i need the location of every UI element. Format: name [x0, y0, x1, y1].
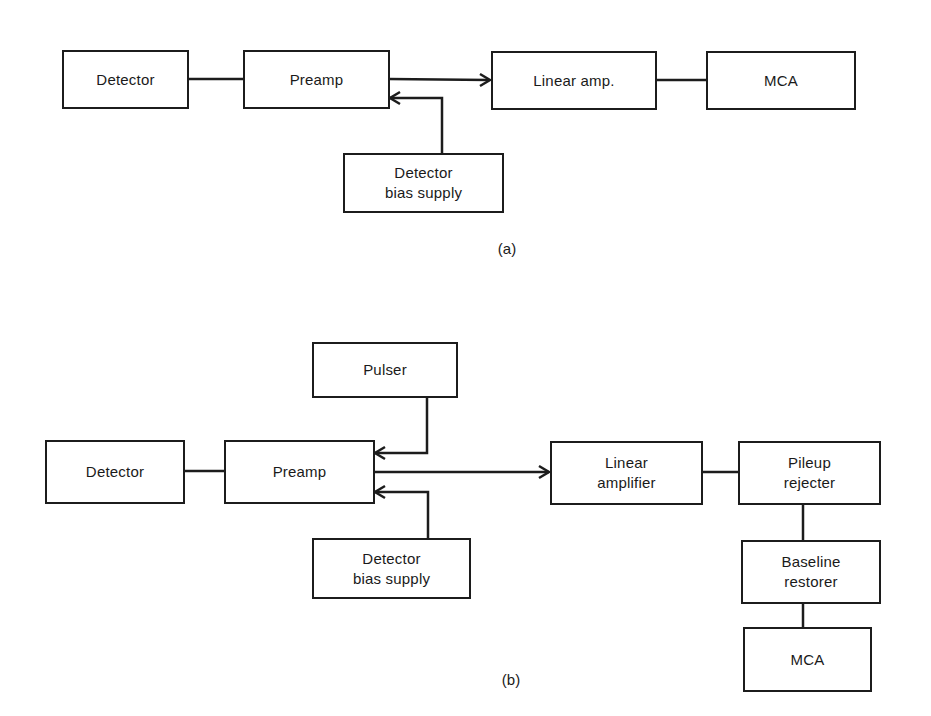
block-label: Linear amplifier: [597, 453, 655, 493]
block-label: Baseline restorer: [781, 552, 840, 592]
block-a-mca: MCA: [706, 51, 856, 110]
block-b-linear-amplifier: Linear amplifier: [550, 441, 703, 505]
wire-a-preamp-linear: [389, 79, 489, 80]
block-a-bias-supply: Detector bias supply: [343, 153, 504, 213]
block-label: Preamp: [290, 70, 344, 90]
block-label: Preamp: [273, 462, 327, 482]
block-b-bias-supply: Detector bias supply: [312, 538, 471, 599]
block-label: Detector: [96, 70, 154, 90]
wire-a-bias-preamp: [390, 98, 442, 153]
block-b-preamp: Preamp: [224, 440, 375, 504]
block-label: Detector: [86, 462, 144, 482]
block-label: Pulser: [363, 360, 407, 380]
caption-b: (b): [502, 671, 520, 688]
block-b-baseline-restorer: Baseline restorer: [741, 540, 881, 604]
block-a-detector: Detector: [62, 50, 189, 109]
wire-b-bias-preamp: [375, 492, 428, 538]
block-label: Detector bias supply: [385, 163, 462, 203]
block-b-mca: MCA: [743, 627, 872, 692]
block-a-preamp: Preamp: [243, 50, 390, 109]
block-label: Detector bias supply: [353, 549, 430, 589]
block-label: Linear amp.: [533, 71, 614, 91]
block-a-linear-amp: Linear amp.: [491, 51, 657, 110]
block-label: MCA: [791, 650, 825, 670]
caption-a: (a): [498, 240, 516, 257]
wire-b-pulser-preamp: [375, 397, 427, 453]
block-label: MCA: [764, 71, 798, 91]
block-label: Pileup rejecter: [784, 453, 836, 493]
block-b-pileup-rejecter: Pileup rejecter: [738, 441, 881, 505]
block-b-detector: Detector: [45, 440, 185, 504]
block-b-pulser: Pulser: [312, 342, 458, 398]
